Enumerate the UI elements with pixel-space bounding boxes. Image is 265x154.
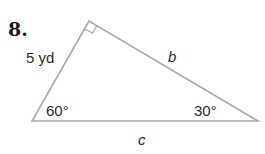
problem-number: 8.: [8, 18, 28, 40]
angle-30-label: 30°: [194, 102, 217, 119]
angle-60-label: 60°: [46, 102, 69, 119]
side-left-label: 5 yd: [26, 49, 54, 66]
side-c-label: c: [138, 131, 146, 148]
triangle-diagram: 8. 5 yd b c 60° 30°: [0, 0, 265, 154]
side-b-label: b: [168, 48, 176, 65]
